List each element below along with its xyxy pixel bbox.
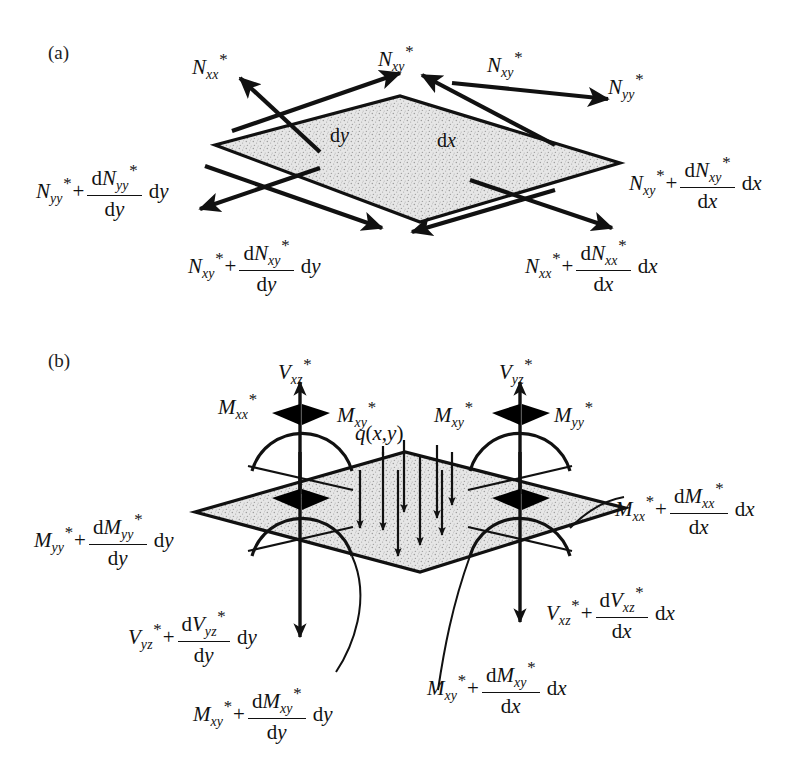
label-nxy-top-right: Nxy* <box>487 48 523 81</box>
label-vxz: Vxz* <box>278 355 312 388</box>
moment-arc-far-left <box>252 433 352 471</box>
label-mxy-incr-dx: Mxy*+dMxy*dx dx <box>427 660 567 721</box>
label-myy-right: Myy* <box>554 398 593 431</box>
moment-head-myy-right <box>522 404 550 425</box>
plate-b <box>195 452 625 572</box>
moment-head-mxy-left <box>302 404 330 425</box>
label-mxx-incr: Mxx*+dMxx*dx dx <box>615 481 755 542</box>
moment-head-mxx-left <box>272 404 300 425</box>
label-mxy-right: Mxy* <box>434 398 473 431</box>
label-myy-incr: Myy*+dMyy*dy dy <box>34 512 174 573</box>
moment-head-mxy-right <box>492 404 520 425</box>
label-vxz-incr: Vxz*+dVxz*dx dx <box>546 585 675 646</box>
panel-label-a: (a) <box>48 42 69 64</box>
label-mxx-left: Mxx* <box>218 390 257 423</box>
figure-canvas: (a) (b) Nxx* Nxy* Nxy* Nyy* dy dx Nyy*+d… <box>0 0 811 775</box>
label-vyz-incr: Vyz*+dVyz*dy dy <box>128 609 257 670</box>
panel-a-graphics <box>200 73 620 232</box>
label-dy-a: dy <box>330 124 349 147</box>
label-nyy-incr: Nyy*+dNyy*dy dy <box>36 163 169 224</box>
label-mxy-incr-dy: Mxy*+dMxy*dy dy <box>193 686 333 747</box>
leader-mxy-incr-dy <box>336 556 360 672</box>
arrow-nyy-top <box>452 83 608 99</box>
diagram-svg <box>0 0 811 775</box>
label-nxy-incr-dx: Nxy*+dNxy*dx dx <box>629 155 762 216</box>
panel-label-b: (b) <box>48 350 70 372</box>
arrow-nyy-incr <box>200 168 320 209</box>
label-q-load: q(x,y) <box>355 421 403 446</box>
label-nxx-top: Nxx* <box>192 50 228 83</box>
label-dx-a: dx <box>437 129 456 152</box>
label-nxx-incr-dx: Nxx*+dNxx*dx dx <box>525 238 658 299</box>
label-vyz: Vyz* <box>499 355 533 388</box>
label-nxy-top-left: Nxy* <box>378 42 414 75</box>
label-nyy-top: Nyy* <box>608 70 644 103</box>
label-nxy-incr-dy: Nxy*+dNxy*dy dy <box>188 238 321 299</box>
